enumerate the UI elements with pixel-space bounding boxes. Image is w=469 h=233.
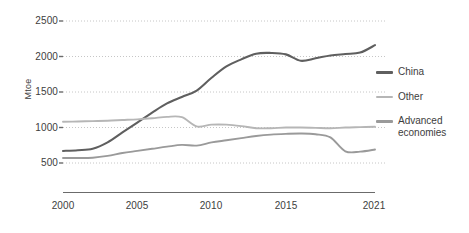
series-lines <box>63 45 375 158</box>
legend: China Other Advanced economies <box>376 66 469 151</box>
series-line-other <box>63 116 375 128</box>
legend-item-advanced-economies[interactable]: Advanced economies <box>376 115 469 138</box>
series-line-china <box>63 45 375 151</box>
line-chart: Mtoe 2500 2000 1500 1000 500 2000 2005 2… <box>0 0 469 233</box>
series-line-advanced-economies <box>63 134 375 159</box>
legend-swatch-china <box>376 71 393 74</box>
legend-item-other[interactable]: Other <box>376 91 469 103</box>
legend-swatch-advanced-economies <box>376 120 393 123</box>
legend-label-advanced-economies: Advanced economies <box>398 115 446 138</box>
legend-label-other: Other <box>398 91 423 103</box>
legend-item-china[interactable]: China <box>376 66 469 78</box>
legend-label-china: China <box>398 66 424 78</box>
legend-swatch-other <box>376 96 393 99</box>
